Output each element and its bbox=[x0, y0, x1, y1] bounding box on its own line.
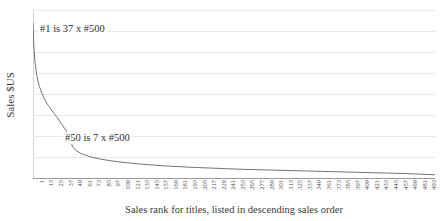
x-tick-label: 145 bbox=[153, 180, 160, 190]
x-tick-label: 445 bbox=[392, 180, 399, 190]
x-tick-label: 157 bbox=[162, 180, 169, 190]
x-tick-label: 337 bbox=[306, 180, 313, 190]
x-tick-label: 313 bbox=[287, 180, 294, 190]
x-tick-label: 289 bbox=[268, 180, 275, 190]
x-tick-label: 385 bbox=[344, 180, 351, 190]
x-tick-label: 253 bbox=[239, 180, 246, 190]
x-tick-label: 397 bbox=[354, 180, 361, 190]
x-tick-label: 49 bbox=[76, 180, 83, 187]
x-axis-tick-labels: 1132537496173859710912113314515716918119… bbox=[33, 180, 435, 202]
x-tick-label: 301 bbox=[277, 180, 284, 190]
x-tick-label: 73 bbox=[95, 180, 102, 187]
x-tick-label: 493 bbox=[430, 180, 437, 190]
x-tick-label: 169 bbox=[172, 180, 179, 190]
series-path bbox=[33, 23, 435, 175]
annotation-rank-1: #1 is 37 x #500 bbox=[38, 23, 107, 35]
x-tick-label: 325 bbox=[296, 180, 303, 190]
x-tick-label: 37 bbox=[67, 180, 74, 187]
annotation-rank-50: #50 is 7 x #500 bbox=[63, 132, 132, 144]
x-tick-label: 433 bbox=[382, 180, 389, 190]
x-tick-label: 421 bbox=[373, 180, 380, 190]
x-tick-label: 469 bbox=[411, 180, 418, 190]
x-tick-label: 109 bbox=[124, 180, 131, 190]
x-tick-label: 229 bbox=[220, 180, 227, 190]
x-tick-label: 277 bbox=[258, 180, 265, 190]
x-tick-label: 61 bbox=[86, 180, 93, 187]
sales-rank-chart: Sales $US #1 is 37 x #500 #50 is 7 x #50… bbox=[0, 0, 441, 221]
x-tick-label: 97 bbox=[114, 180, 121, 187]
y-axis-title: Sales $US bbox=[2, 40, 18, 150]
x-tick-label: 457 bbox=[402, 180, 409, 190]
x-tick-label: 361 bbox=[325, 180, 332, 190]
x-tick-label: 481 bbox=[421, 180, 428, 190]
x-axis-title: Sales rank for titles, listed in descend… bbox=[33, 204, 435, 215]
x-tick-label: 373 bbox=[335, 180, 342, 190]
x-tick-label: 1 bbox=[38, 180, 45, 183]
x-tick-label: 265 bbox=[248, 180, 255, 190]
x-tick-label: 85 bbox=[105, 180, 112, 187]
x-tick-label: 349 bbox=[315, 180, 322, 190]
series-line-sales-by-rank bbox=[33, 10, 435, 179]
y-axis-title-label: Sales $US bbox=[4, 72, 16, 118]
plot-area bbox=[33, 10, 435, 179]
x-tick-label: 25 bbox=[57, 180, 64, 187]
x-tick-label: 205 bbox=[201, 180, 208, 190]
x-tick-label: 133 bbox=[143, 180, 150, 190]
x-tick-label: 241 bbox=[229, 180, 236, 190]
x-tick-label: 217 bbox=[210, 180, 217, 190]
x-tick-label: 13 bbox=[47, 180, 54, 187]
x-tick-label: 409 bbox=[363, 180, 370, 190]
x-tick-label: 121 bbox=[134, 180, 141, 190]
x-tick-label: 181 bbox=[181, 180, 188, 190]
x-tick-label: 193 bbox=[191, 180, 198, 190]
